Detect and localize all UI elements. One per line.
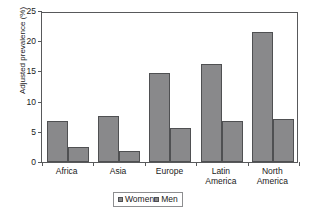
bar-men-latin-america xyxy=(222,121,243,162)
chart-legend: WomenMen xyxy=(113,192,183,207)
x-axis-label-north-america: NorthAmerica xyxy=(247,166,298,186)
bar-chart-figure: Adjusted prevalence (%) 0510152025 Afric… xyxy=(0,0,312,209)
bar-group xyxy=(145,13,196,162)
bar-women-europe xyxy=(149,73,170,162)
bar-women-asia xyxy=(98,116,119,162)
y-axis-tick-label: 20 xyxy=(27,36,36,46)
x-axis-label-line: Europe xyxy=(144,166,195,176)
x-axis-label-line: North xyxy=(247,166,298,176)
x-axis-label-line: Africa xyxy=(41,166,92,176)
legend-swatch-icon xyxy=(154,197,159,202)
y-axis-tick-label: 25 xyxy=(27,6,36,16)
y-axis-title: Adjusted prevalence (%) xyxy=(18,0,27,121)
x-axis-label-line: Latin xyxy=(195,166,246,176)
legend-swatch-icon xyxy=(118,197,123,202)
y-axis-tick-label: 0 xyxy=(31,157,36,167)
bar-men-africa xyxy=(68,147,89,162)
y-axis-tick-label: 10 xyxy=(27,97,36,107)
x-axis-label-africa: Africa xyxy=(41,166,92,176)
y-axis-tick-mark xyxy=(38,11,42,12)
x-axis-label-line: Asia xyxy=(92,166,143,176)
legend-label: Men xyxy=(161,194,178,204)
bar-men-europe xyxy=(170,128,191,162)
y-axis-tick-label: 5 xyxy=(31,127,36,137)
legend-entry-men: Men xyxy=(154,194,178,204)
bar-men-north-america xyxy=(273,119,294,162)
y-axis-tick-label: 15 xyxy=(27,66,36,76)
x-axis-label-latin-america: LatinAmerica xyxy=(195,166,246,186)
bar-women-latin-america xyxy=(201,64,222,162)
legend-label: Women xyxy=(125,194,154,204)
bar-group xyxy=(93,13,144,162)
x-axis-label-line: America xyxy=(247,176,298,186)
bar-men-asia xyxy=(119,151,140,162)
bar-group xyxy=(42,13,93,162)
x-axis-label-asia: Asia xyxy=(92,166,143,176)
plot-area: 0510152025 xyxy=(41,12,298,163)
x-axis-label-line: America xyxy=(195,176,246,186)
bar-women-africa xyxy=(47,121,68,162)
bar-women-north-america xyxy=(252,32,273,162)
legend-entry-women: Women xyxy=(118,194,154,204)
x-axis-tick-mark xyxy=(299,162,300,166)
x-axis-label-europe: Europe xyxy=(144,166,195,176)
plot-inner: 0510152025 xyxy=(42,13,297,162)
bar-group xyxy=(248,13,299,162)
bar-group xyxy=(196,13,247,162)
